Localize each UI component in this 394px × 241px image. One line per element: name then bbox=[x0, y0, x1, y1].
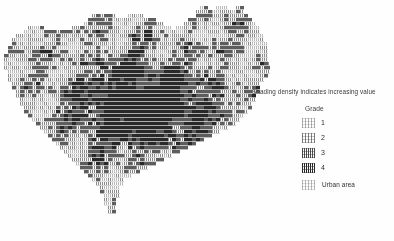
legend-item-label: 2 bbox=[321, 133, 325, 143]
legend-item-label: 1 bbox=[321, 118, 325, 128]
legend-item-urban-area: Urban area bbox=[302, 179, 355, 191]
legend-caption: Shading density indicates increasing val… bbox=[252, 88, 394, 95]
figure-root: Shading density indicates increasing val… bbox=[0, 0, 394, 241]
legend-item-grade-3: 3 bbox=[302, 147, 325, 159]
legend-title: Grade bbox=[305, 105, 324, 112]
map-area bbox=[0, 0, 270, 241]
legend-item-grade-4: 4 bbox=[302, 162, 325, 174]
legend-item-grade-1: 1 bbox=[302, 117, 325, 129]
legend-item-grade-2: 2 bbox=[302, 132, 325, 144]
grade-3-swatch bbox=[302, 148, 315, 158]
grade-1-swatch bbox=[302, 118, 315, 128]
urban-area-swatch bbox=[302, 180, 315, 190]
grade-2-swatch bbox=[302, 133, 315, 143]
map-grid-canvas bbox=[0, 0, 270, 241]
legend-item-label: Urban area bbox=[322, 180, 355, 190]
legend-item-label: 4 bbox=[321, 163, 325, 173]
legend: Shading density indicates increasing val… bbox=[252, 86, 394, 206]
legend-item-label: 3 bbox=[321, 148, 325, 158]
grade-4-swatch bbox=[302, 163, 315, 173]
